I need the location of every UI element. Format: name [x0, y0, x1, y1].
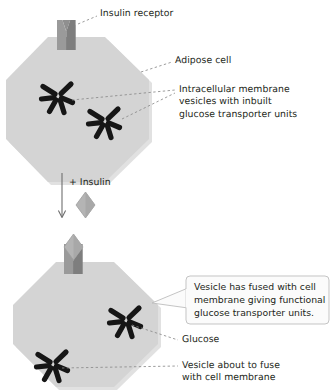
diagram-graphics — [0, 0, 331, 390]
label-intracellular-vesicles: Intracellular membrane vesicles with inb… — [179, 84, 329, 121]
top-cell-group — [6, 37, 152, 185]
leader-adipose-cell — [141, 62, 172, 72]
insulin-molecule-free — [76, 192, 95, 218]
label-adipose-cell: Adipose cell — [175, 55, 231, 67]
insulin-glucose-transporter-diagram: Insulin receptor Adipose cell Intracellu… — [0, 0, 331, 390]
label-vesicle-about-to-fuse: Vesicle about to fuse with cell membrane — [182, 360, 322, 385]
leader-insulin-receptor — [78, 16, 97, 24]
label-insulin-receptor: Insulin receptor — [100, 8, 173, 20]
insulin-receptor-top — [57, 20, 76, 50]
label-plus-insulin: + Insulin — [69, 177, 111, 189]
label-glucose: Glucose — [182, 334, 219, 346]
callout-vesicle-fused-text: Vesicle has fused with cell membrane giv… — [194, 280, 326, 320]
